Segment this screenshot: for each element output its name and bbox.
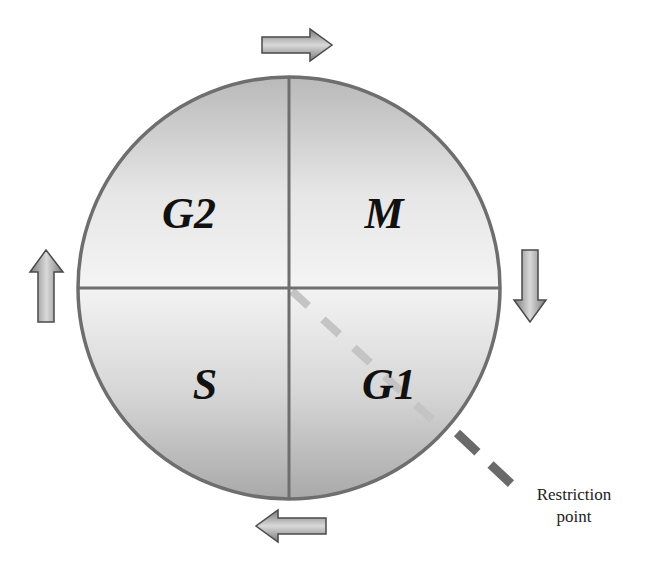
restriction-point-line1: Restriction — [524, 484, 624, 506]
arrow-right-icon — [262, 29, 332, 61]
arrow-up-icon — [30, 250, 63, 322]
restriction-point-label: Restriction point — [524, 484, 624, 528]
cell-cycle-diagram: G2 M G1 S Restriction point — [0, 0, 646, 578]
restriction-line-outside — [457, 433, 522, 494]
phase-label-m: M — [364, 188, 403, 239]
arrow-down-icon — [514, 250, 546, 322]
phase-label-s: S — [193, 359, 217, 410]
restriction-point-line2: point — [524, 506, 624, 528]
phase-label-g2: G2 — [162, 188, 216, 239]
phase-label-g1: G1 — [362, 359, 416, 410]
arrow-left-icon — [256, 510, 326, 542]
